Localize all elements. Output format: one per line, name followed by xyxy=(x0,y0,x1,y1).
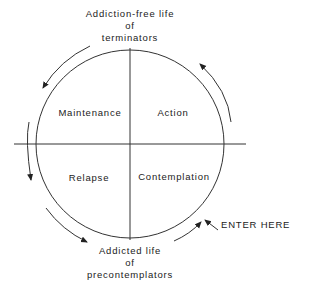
arrow-left-icon xyxy=(27,122,31,180)
arrow-top-left-icon xyxy=(43,46,90,88)
bottom-label-line3: precontemplators xyxy=(78,269,182,281)
bottom-label: Addicted life of precontemplators xyxy=(78,245,182,281)
enter-here-label: ENTER HERE xyxy=(221,219,293,231)
top-label-line3: terminators xyxy=(70,32,190,44)
enter-arrow-icon xyxy=(205,220,218,230)
quadrant-contemplation: Contemplation xyxy=(134,171,214,183)
bottom-label-line1: Addicted life xyxy=(78,245,182,257)
quadrant-maintenance: Maintenance xyxy=(52,107,128,119)
bottom-label-line2: of xyxy=(78,257,182,269)
quadrant-relapse: Relapse xyxy=(64,172,114,184)
quadrant-action: Action xyxy=(148,107,198,119)
top-label: Addiction-free life of terminators xyxy=(70,8,190,44)
top-label-line1: Addiction-free life xyxy=(70,8,190,20)
top-label-line2: of xyxy=(70,20,190,32)
arrow-right-icon xyxy=(200,64,231,122)
